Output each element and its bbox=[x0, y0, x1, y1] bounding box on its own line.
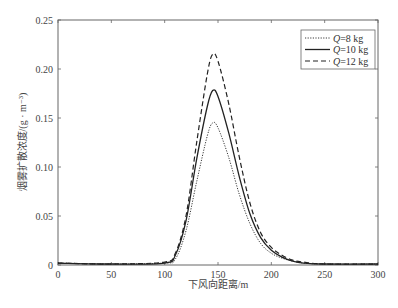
y-tick-label: 0.20 bbox=[36, 64, 54, 75]
y-tick-label: 0.25 bbox=[36, 15, 54, 26]
y-axis-label: 烟雾扩散浓度/(g · m⁻³) bbox=[16, 93, 29, 192]
legend-label: Q=12 kg bbox=[333, 56, 368, 67]
x-axis-label: 下风向距离/m bbox=[188, 278, 249, 290]
legend: Q=8 kgQ=10 kgQ=12 kg bbox=[301, 30, 375, 69]
y-tick-label: 0.05 bbox=[36, 211, 54, 222]
x-tick-label: 50 bbox=[106, 269, 116, 280]
legend-label: Q=8 kg bbox=[333, 33, 363, 44]
line-chart: 00.050.100.150.200.25 050100150200250300… bbox=[0, 0, 398, 308]
series-line-dotted bbox=[58, 122, 378, 264]
series-group bbox=[58, 53, 378, 264]
x-tick-label: 250 bbox=[317, 269, 332, 280]
y-tick-label: 0.10 bbox=[36, 162, 54, 173]
x-tick-label: 200 bbox=[264, 269, 279, 280]
x-tick-label: 300 bbox=[371, 269, 386, 280]
series-line-dashed bbox=[58, 53, 378, 264]
y-tick-label: 0.15 bbox=[36, 113, 54, 124]
x-tick-label: 0 bbox=[56, 269, 61, 280]
legend-label: Q=10 kg bbox=[333, 44, 368, 55]
series-line-solid bbox=[58, 90, 378, 264]
x-tick-label: 100 bbox=[157, 269, 172, 280]
y-tick-label: 0 bbox=[48, 260, 53, 271]
